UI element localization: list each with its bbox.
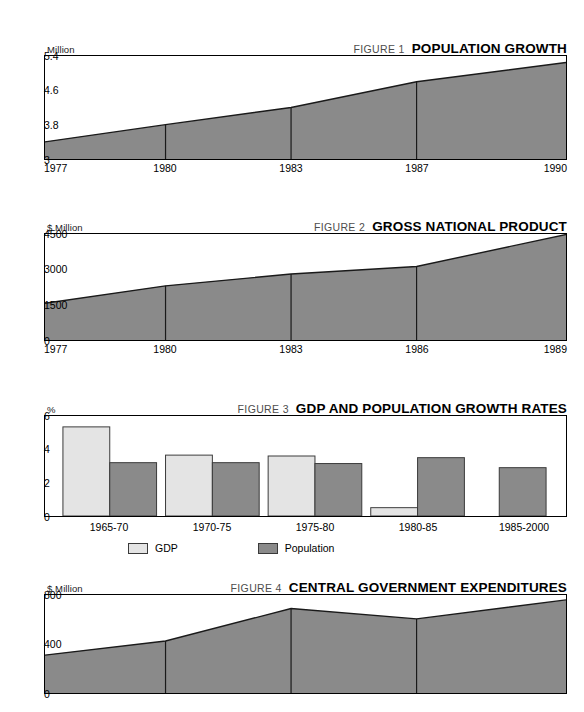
figure-1-plot-row: 3 3.8 4.6 5.4: [0, 55, 584, 160]
figure-2: $ Million FIGURE 2 GROSS NATIONAL PRODUC…: [0, 217, 584, 357]
figure-4-plot-row: 0 400 800: [0, 594, 584, 694]
figure-3-title-group: FIGURE 3 GDP AND POPULATION GROWTH RATES: [238, 401, 567, 416]
figure-1-title-group: FIGURE 1 POPULATION GROWTH: [353, 41, 567, 56]
figure-3-xtick-1985-2000: 1985-2000: [499, 521, 549, 533]
figure-1-xtick-1980: 1980: [153, 162, 176, 174]
figure-2-title-group: FIGURE 2 GROSS NATIONAL PRODUCT: [314, 219, 567, 234]
figure-2-area-svg: [45, 234, 566, 340]
legend-swatch-gdp: [128, 543, 148, 554]
figure-2-xtick-1983: 1983: [279, 343, 302, 355]
figure-2-xtick-1980: 1980: [153, 343, 176, 355]
legend-item-gdp: GDP: [128, 542, 178, 554]
figure-4-area-svg: [45, 595, 566, 693]
figure-3-xtick-1980-85: 1980-85: [399, 521, 438, 533]
figure-2-plot: [44, 233, 567, 341]
legend-swatch-population: [258, 543, 278, 554]
figure-1-title: POPULATION GROWTH: [412, 41, 567, 56]
bar-gdp-1965-70: [63, 427, 110, 516]
figure-1-xtick-1983: 1983: [279, 162, 302, 174]
bar-population-1980-85: [418, 458, 465, 516]
figure-3-plot-row: 0 2 4 6: [0, 415, 584, 517]
figure-1-number: FIGURE 1: [353, 43, 404, 55]
bar-population-1985-2000: [499, 468, 546, 516]
figure-1-xtick-1990: 1990: [544, 162, 567, 174]
figure-2-number: FIGURE 2: [314, 221, 365, 233]
figure-1-xaxis: 1977 1980 1983 1987 1990: [0, 162, 584, 176]
bar-gdp-1970-75: [166, 455, 213, 516]
figure-4-title: CENTRAL GOVERNMENT EXPENDITURES: [289, 580, 567, 595]
figure-3-header: % FIGURE 3 GDP AND POPULATION GROWTH RAT…: [0, 399, 584, 415]
figure-2-header: $ Million FIGURE 2 GROSS NATIONAL PRODUC…: [0, 217, 584, 233]
figures-page: Million FIGURE 1 POPULATION GROWTH 3 3.8…: [0, 0, 584, 712]
figure-4-number: FIGURE 4: [231, 582, 282, 594]
bar-population-1970-75: [212, 463, 259, 516]
figure-3-xtick-1965-70: 1965-70: [90, 521, 129, 533]
figure-1-area-svg: [45, 56, 566, 159]
figure-1-header: Million FIGURE 1 POPULATION GROWTH: [0, 39, 584, 55]
figure-4-plot: [44, 594, 567, 694]
figure-3-legend: GDP Population: [128, 542, 584, 554]
bar-population-1975-80: [315, 464, 362, 516]
figure-2-area-fill: [45, 234, 566, 340]
figure-3-xtick-1975-80: 1975-80: [296, 521, 335, 533]
figure-2-xtick-1986: 1986: [405, 343, 428, 355]
figure-2-plot-row: 0 1500 3000 4500: [0, 233, 584, 341]
figure-2-xtick-1977: 1977: [44, 343, 67, 355]
legend-label-population: Population: [285, 542, 335, 554]
bar-population-1965-70: [110, 463, 157, 516]
figure-2-xtick-1989: 1989: [544, 343, 567, 355]
figure-3-xaxis: 1965-70 1970-75 1975-80 1980-85 1985-200…: [0, 521, 584, 535]
figure-1-xtick-1987: 1987: [405, 162, 428, 174]
bar-gdp-1975-80: [268, 456, 315, 516]
figure-4-header: $ Million FIGURE 4 CENTRAL GOVERNMENT EX…: [0, 578, 584, 594]
bar-gdp-1980-85: [371, 508, 418, 516]
figure-2-title: GROSS NATIONAL PRODUCT: [372, 219, 567, 234]
figure-3-xtick-1970-75: 1970-75: [193, 521, 232, 533]
figure-1-plot: [44, 55, 567, 160]
figure-1: Million FIGURE 1 POPULATION GROWTH 3 3.8…: [0, 39, 584, 176]
figure-3-bars-svg: [45, 416, 566, 516]
figure-2-xaxis: 1977 1980 1983 1986 1989: [0, 343, 584, 357]
figure-3: % FIGURE 3 GDP AND POPULATION GROWTH RAT…: [0, 399, 584, 554]
legend-label-gdp: GDP: [155, 542, 178, 554]
figure-3-title: GDP AND POPULATION GROWTH RATES: [296, 401, 567, 416]
figure-3-number: FIGURE 3: [238, 403, 289, 415]
figure-3-plot: [44, 415, 567, 517]
figure-4: $ Million FIGURE 4 CENTRAL GOVERNMENT EX…: [0, 578, 584, 694]
legend-item-population: Population: [258, 542, 335, 554]
figure-1-xtick-1977: 1977: [44, 162, 67, 174]
figure-1-area-fill: [45, 62, 566, 159]
figure-4-title-group: FIGURE 4 CENTRAL GOVERNMENT EXPENDITURES: [231, 580, 567, 595]
